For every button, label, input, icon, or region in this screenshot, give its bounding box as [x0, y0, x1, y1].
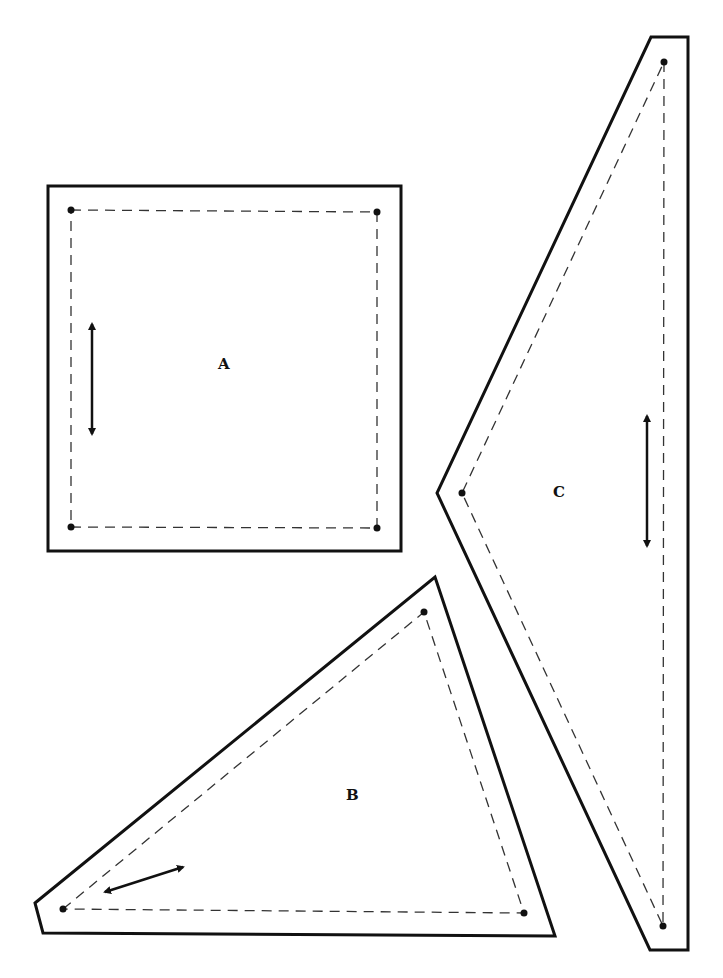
piece-c-label: C	[553, 483, 565, 501]
match-point-dot	[68, 524, 75, 531]
match-point-dot	[459, 490, 466, 497]
match-point-dot	[421, 609, 428, 616]
piece-b: B	[35, 577, 555, 936]
match-point-dot	[661, 59, 668, 66]
match-point-dot	[374, 209, 381, 216]
piece-b-sewing-line	[63, 612, 524, 913]
match-point-dot	[60, 906, 67, 913]
match-point-dot	[521, 910, 528, 917]
piece-c: C	[437, 37, 688, 950]
match-point-dot	[68, 207, 75, 214]
piece-b-label: B	[346, 786, 359, 804]
match-point-dot	[374, 525, 381, 532]
piece-a: A	[48, 186, 401, 551]
piece-a-label: A	[217, 355, 230, 373]
match-point-dot	[660, 923, 667, 930]
pattern-sheet: A C B	[0, 0, 723, 978]
grainline-arrow-icon	[105, 867, 183, 892]
piece-b-cutting-line	[35, 577, 555, 936]
